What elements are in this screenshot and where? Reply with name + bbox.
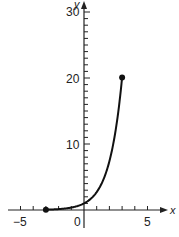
x-tick-label-neg5: −5 [13,215,27,229]
y-tick-label-10: 10 [66,138,80,152]
exponential-chart: x y −5 0 5 30 20 10 [0,0,179,237]
x-tick-label-0: 0 [74,215,81,229]
y-minor-ticks [84,12,90,203]
x-axis-label: x [169,204,176,216]
y-axis-arrow-icon [81,1,87,9]
y-tick-label-20: 20 [66,72,80,86]
start-point-dot [43,207,49,213]
end-point-dot [119,74,125,80]
y-tick-label-30: 30 [66,5,80,19]
x-tick-label-5: 5 [144,215,151,229]
x-axis-arrow-icon [160,207,168,213]
